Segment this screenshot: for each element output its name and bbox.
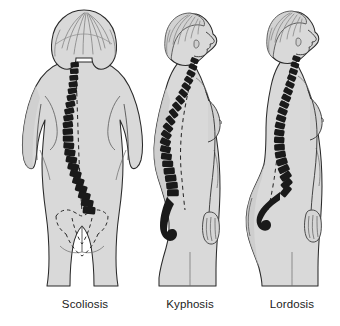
caption-row: Scoliosis Kyphosis Lordosis <box>0 298 340 318</box>
anatomy-diagram-canvas <box>0 0 340 326</box>
lordosis-ear <box>296 38 301 46</box>
spinal-curvature-illustration: Scoliosis Kyphosis Lordosis <box>0 0 340 326</box>
caption-lordosis: Lordosis <box>232 298 340 310</box>
caption-scoliosis: Scoliosis <box>25 298 145 310</box>
kyphosis-ear <box>194 40 199 48</box>
kyphosis-hand <box>203 212 220 244</box>
lordosis-hand <box>305 210 322 242</box>
